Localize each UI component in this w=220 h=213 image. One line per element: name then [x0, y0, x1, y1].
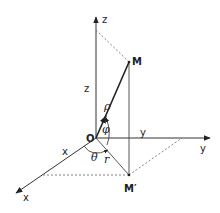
x-axis-label: x — [23, 192, 29, 203]
Mprime-label: M′ — [124, 183, 137, 194]
x-coord-label: x — [62, 146, 68, 157]
theta-label: θ — [91, 151, 98, 164]
spherical-coordinates-diagram: z y x z y x O M M′ ρ φ θ r — [0, 0, 220, 213]
rho-vector — [96, 62, 129, 138]
dashed-z-to-M — [96, 30, 129, 62]
origin-label: O — [86, 133, 95, 144]
dashed-Mprime-to-y — [129, 138, 182, 175]
z-axis-label: z — [102, 14, 107, 25]
line-r — [96, 138, 129, 175]
y-coord-label: y — [140, 127, 146, 138]
rho-arrow-icon — [104, 116, 106, 120]
z-height-label: z — [84, 83, 89, 94]
r-label: r — [104, 153, 110, 166]
rho-label: ρ — [103, 100, 111, 113]
point-M — [128, 61, 131, 64]
y-axis-label: y — [200, 143, 206, 154]
M-label: M — [132, 56, 142, 67]
point-Mprime — [128, 174, 131, 177]
phi-label: φ — [102, 123, 110, 136]
